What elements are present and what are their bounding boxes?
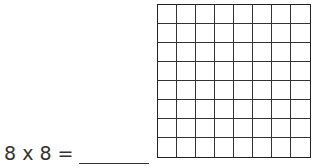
grid-cell xyxy=(215,5,234,24)
grid-cell xyxy=(272,43,291,62)
grid-cell xyxy=(196,62,215,81)
grid-cell xyxy=(234,100,253,119)
grid-cell xyxy=(215,43,234,62)
grid-cell xyxy=(158,119,177,138)
grid-cell xyxy=(234,5,253,24)
grid-cell xyxy=(234,62,253,81)
grid-cell xyxy=(253,138,272,157)
grid-cell xyxy=(272,81,291,100)
grid-cell xyxy=(272,24,291,43)
grid-cell xyxy=(177,138,196,157)
grid-cell xyxy=(196,138,215,157)
grid-cell xyxy=(177,5,196,24)
grid-cell xyxy=(158,100,177,119)
grid-cell xyxy=(234,81,253,100)
grid-cell xyxy=(253,119,272,138)
grid-cell xyxy=(234,43,253,62)
grid-cell xyxy=(177,100,196,119)
grid-cell xyxy=(253,5,272,24)
grid-cell xyxy=(272,138,291,157)
grid-cell xyxy=(177,62,196,81)
grid-cell xyxy=(234,119,253,138)
equation-text: 8 x 8 = xyxy=(4,142,73,164)
grid-cell xyxy=(253,100,272,119)
grid-cell xyxy=(253,43,272,62)
multiplication-equation: 8 x 8 = xyxy=(4,142,149,164)
grid-cell xyxy=(177,81,196,100)
grid-cell xyxy=(158,24,177,43)
grid-cell xyxy=(215,100,234,119)
grid-cell xyxy=(215,81,234,100)
grid-cell xyxy=(291,138,310,157)
grid-cell xyxy=(177,119,196,138)
grid-cell xyxy=(272,5,291,24)
grid-cell xyxy=(196,5,215,24)
grid-cell xyxy=(253,62,272,81)
grid-cell xyxy=(272,100,291,119)
grid-cell xyxy=(253,24,272,43)
grid-cell xyxy=(177,43,196,62)
grid-cell xyxy=(234,24,253,43)
grid-cell xyxy=(215,138,234,157)
grid-cell xyxy=(291,5,310,24)
grid-cell xyxy=(291,81,310,100)
grid-cell xyxy=(158,5,177,24)
grid-cell xyxy=(158,138,177,157)
grid-cell xyxy=(291,43,310,62)
grid-cell xyxy=(196,119,215,138)
answer-blank[interactable] xyxy=(79,145,149,164)
grid-cell xyxy=(158,43,177,62)
array-grid xyxy=(157,4,311,158)
grid-cell xyxy=(215,119,234,138)
grid-cell xyxy=(215,24,234,43)
grid-cell xyxy=(177,24,196,43)
grid-cell xyxy=(291,119,310,138)
grid-cell xyxy=(158,62,177,81)
grid-cell xyxy=(196,81,215,100)
grid-cell xyxy=(291,24,310,43)
grid-cell xyxy=(234,138,253,157)
grid-cell xyxy=(272,62,291,81)
grid-cell xyxy=(158,81,177,100)
grid-cell xyxy=(215,62,234,81)
grid-cell xyxy=(291,100,310,119)
grid-cell xyxy=(291,62,310,81)
grid-cell xyxy=(196,43,215,62)
grid-cell xyxy=(196,24,215,43)
grid-cell xyxy=(196,100,215,119)
grid-cell xyxy=(253,81,272,100)
grid-cell xyxy=(272,119,291,138)
